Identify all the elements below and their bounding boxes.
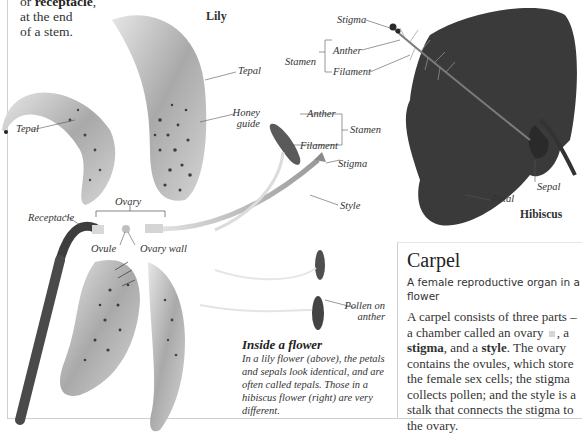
hibiscus-title: Hibiscus xyxy=(520,208,562,220)
label-anther-hibiscus: Anther xyxy=(333,45,362,56)
hibiscus-flower-icon xyxy=(390,8,577,226)
lily-title: Lily xyxy=(206,9,227,24)
label-stigma-lily: Stigma xyxy=(338,158,367,169)
label-stamen-lily: Stamen xyxy=(350,124,381,135)
carpel-body: A carpel consists of three parts – a cha… xyxy=(407,309,582,433)
label-petal: Petal xyxy=(492,193,514,204)
label-ovary-wall: Ovary wall xyxy=(140,243,187,254)
carpel-subtitle: A female reproductive organ in a flower xyxy=(407,275,582,303)
ovule-icon xyxy=(122,225,130,233)
lily-upper-tepal-icon xyxy=(112,15,206,200)
label-stigma-hibiscus: Stigma xyxy=(337,14,366,25)
label-tepal-right: Tepal xyxy=(238,65,261,76)
anther-small-icon xyxy=(315,250,325,280)
lily-lower-left-tepal-icon xyxy=(60,260,140,396)
label-tepal-left: Tepal xyxy=(16,123,39,134)
label-style: Style xyxy=(340,200,360,211)
label-sepal: Sepal xyxy=(537,181,560,192)
lily-lower-right-tepal-icon xyxy=(148,262,185,431)
pollen-anther-icon xyxy=(312,296,324,330)
label-pollen-on-anther: Pollen onanther xyxy=(335,300,385,322)
label-ovary: Ovary xyxy=(115,196,141,207)
stigma-hibiscus-icon xyxy=(390,24,397,31)
carpel-panel: Carpel A female reproductive organ in a … xyxy=(397,242,582,418)
label-honey-guide: Honeyguide xyxy=(218,107,260,129)
lily-left-tepal-icon xyxy=(2,92,115,205)
inside-flower-body: In a lily flower (above), the petals and… xyxy=(242,352,392,417)
label-anther-lily: Anther xyxy=(307,108,336,119)
carpel-title: Carpel xyxy=(407,249,582,271)
ovary-color-swatch-icon xyxy=(549,331,555,337)
inside-flower-title: Inside a flower xyxy=(242,338,392,352)
label-filament-hibiscus: Filament xyxy=(333,66,371,77)
label-ovule: Ovule xyxy=(91,243,116,254)
stigma-term: stigma xyxy=(407,340,444,355)
label-stamen-hibiscus: Stamen xyxy=(285,56,316,67)
label-filament-lily: Filament xyxy=(300,140,338,151)
intro-text: or receptacle, at the end of a stem. xyxy=(20,0,96,39)
receptacle-term: receptacle xyxy=(35,0,93,9)
receptacle-stem-icon xyxy=(60,226,95,260)
inside-flower-caption: Inside a flower In a lily flower (above)… xyxy=(242,338,392,417)
style-term: style xyxy=(481,340,506,355)
label-receptacle: Receptacle xyxy=(28,212,74,223)
